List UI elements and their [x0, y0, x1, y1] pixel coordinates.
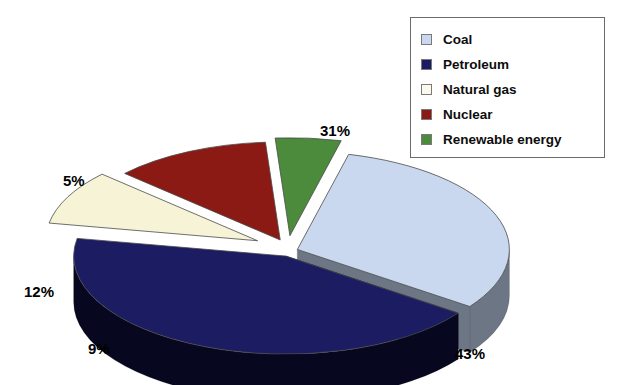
legend-swatch-nuclear-icon — [421, 109, 432, 120]
legend-swatch-natural-gas-icon — [421, 84, 432, 95]
legend-swatch-coal-icon — [421, 34, 432, 45]
slice-label-natural-gas: 9% — [88, 340, 110, 357]
legend-item-coal: Coal — [421, 27, 604, 52]
slice-label-petroleum: 43% — [455, 345, 485, 362]
slice-label-nuclear: 12% — [24, 283, 54, 300]
legend-item-petroleum: Petroleum — [421, 52, 604, 77]
legend-label-natural-gas: Natural gas — [443, 83, 517, 97]
legend-label-renewable-energy: Renewable energy — [443, 133, 562, 147]
legend-swatch-renewable-energy-icon — [421, 134, 432, 145]
legend-item-renewable-energy: Renewable energy — [421, 127, 604, 152]
slice-label-coal: 31% — [320, 122, 350, 139]
legend-item-nuclear: Nuclear — [421, 102, 604, 127]
slice-label-renewable: 5% — [63, 172, 85, 189]
pie-chart-figure: 31% 43% 9% 12% 5% Coal Petroleum Natural… — [0, 0, 639, 385]
legend-label-nuclear: Nuclear — [443, 108, 493, 122]
legend-item-natural-gas: Natural gas — [421, 77, 604, 102]
legend-label-coal: Coal — [443, 33, 472, 47]
legend-label-petroleum: Petroleum — [443, 58, 509, 72]
chart-legend: Coal Petroleum Natural gas Nuclear Renew… — [410, 17, 605, 158]
legend-swatch-petroleum-icon — [421, 59, 432, 70]
